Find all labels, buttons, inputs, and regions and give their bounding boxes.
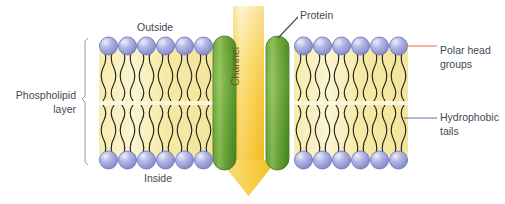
label-phospholipid-layer: Phospholipid layer bbox=[8, 88, 76, 116]
left-bilayer-block bbox=[99, 37, 213, 169]
label-channel: Channel bbox=[229, 47, 242, 86]
protein-subunit-right bbox=[266, 36, 289, 170]
label-hydrophobic-tails: Hydrophobic tails bbox=[440, 110, 499, 138]
protein-leader-line bbox=[278, 17, 298, 38]
right-bilayer-block bbox=[294, 37, 408, 169]
label-outside: Outside bbox=[137, 21, 173, 34]
label-inside: Inside bbox=[144, 172, 172, 185]
label-polar-head-groups: Polar head groups bbox=[440, 43, 491, 71]
membrane-diagram: Outside Inside Protein Channel Polar hea… bbox=[0, 0, 505, 204]
phospholipid-bracket bbox=[82, 38, 88, 165]
label-protein: Protein bbox=[300, 9, 333, 22]
